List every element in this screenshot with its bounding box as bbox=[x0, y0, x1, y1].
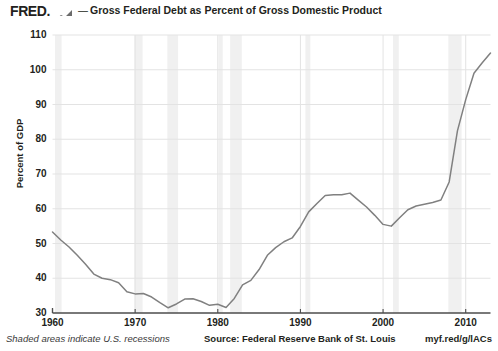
x-tick-1980: 1980 bbox=[193, 317, 243, 328]
y-tick-70: 70 bbox=[17, 168, 47, 179]
y-tick-90: 90 bbox=[17, 99, 47, 110]
x-tick-2010: 2010 bbox=[441, 317, 491, 328]
x-tick-2000: 2000 bbox=[358, 317, 408, 328]
series-line-0 bbox=[53, 53, 491, 308]
chart-footer: Shaded areas indicate U.S. recessions So… bbox=[0, 333, 498, 349]
y-tick-110: 110 bbox=[17, 29, 47, 40]
y-tick-40: 40 bbox=[17, 272, 47, 283]
y-tick-100: 100 bbox=[17, 64, 47, 75]
axis-lines bbox=[53, 308, 491, 313]
source-note: Source: Federal Reserve Bank of St. Loui… bbox=[204, 333, 396, 345]
x-tick-1960: 1960 bbox=[28, 317, 78, 328]
plot-area: Percent of GDP 30405060708090100110 1960… bbox=[0, 0, 498, 330]
y-axis-label: Percent of GDP bbox=[14, 109, 25, 199]
recession-note: Shaded areas indicate U.S. recessions bbox=[6, 333, 170, 345]
x-tick-1970: 1970 bbox=[110, 317, 160, 328]
short-url-link[interactable]: myf.red/g/lACs bbox=[425, 333, 492, 345]
fred-chart-screenshot: FRED. — Gross Federal Debt as Percent of… bbox=[0, 0, 498, 351]
y-tick-50: 50 bbox=[17, 238, 47, 249]
y-tick-80: 80 bbox=[17, 133, 47, 144]
x-tick-1990: 1990 bbox=[275, 317, 325, 328]
chart-svg bbox=[0, 0, 498, 330]
data-series bbox=[53, 53, 491, 308]
y-tick-60: 60 bbox=[17, 203, 47, 214]
grid-lines bbox=[53, 35, 491, 313]
